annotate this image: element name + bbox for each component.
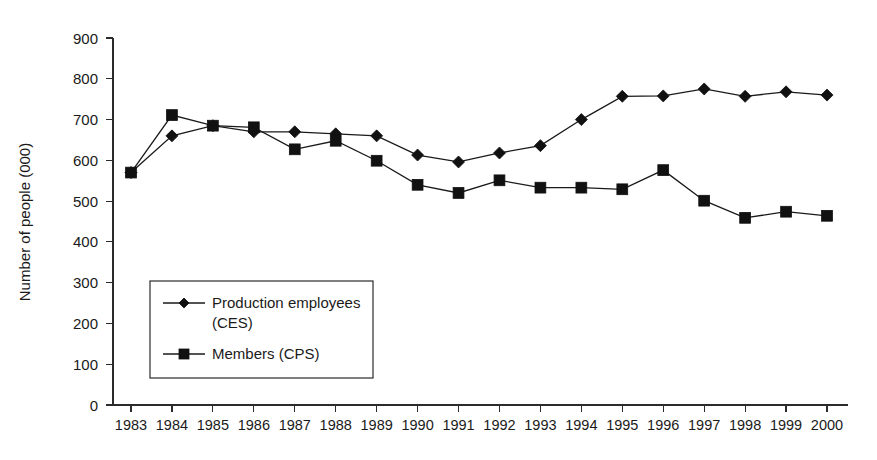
x-tick-label-1996: 1996	[647, 417, 679, 433]
data-point-1996	[658, 165, 669, 176]
y-tick-label-900: 900	[73, 30, 98, 47]
data-point-1985	[207, 120, 218, 131]
x-tick-label-1998: 1998	[729, 417, 761, 433]
y-tick-label-700: 700	[73, 111, 98, 128]
x-tick-label-1990: 1990	[401, 417, 433, 433]
y-axis-title: Number of people (000)	[16, 143, 33, 301]
data-point-1990	[412, 179, 423, 190]
x-tick-label-1988: 1988	[320, 417, 352, 433]
chart-container: Number of people (000) 01002003004005006…	[0, 0, 877, 460]
chart-background	[0, 0, 877, 460]
data-point-1993	[535, 182, 546, 193]
y-tick-label-800: 800	[73, 70, 98, 87]
x-tick-label-1984: 1984	[156, 417, 188, 433]
x-tick-label-1991: 1991	[442, 417, 474, 433]
x-tick-label-1983: 1983	[115, 417, 147, 433]
data-point-2000	[822, 210, 833, 221]
x-tick-label-1999: 1999	[770, 417, 802, 433]
x-tick-label-1989: 1989	[361, 417, 393, 433]
data-point-1992	[494, 175, 505, 186]
x-tick-label-1993: 1993	[524, 417, 556, 433]
data-point-1999	[781, 206, 792, 217]
data-point-1991	[453, 188, 464, 199]
square-marker-icon	[179, 349, 189, 359]
x-tick-label-1987: 1987	[279, 417, 311, 433]
y-tick-label-500: 500	[73, 193, 98, 210]
y-tick-label-400: 400	[73, 233, 98, 250]
legend-label-production-line2: (CES)	[212, 314, 253, 331]
y-tick-label-300: 300	[73, 274, 98, 291]
x-tick-label-1995: 1995	[606, 417, 638, 433]
y-tick-label-0: 0	[90, 397, 98, 414]
x-tick-label-1986: 1986	[238, 417, 270, 433]
legend-label-members-line1: Members (CPS)	[212, 345, 320, 362]
y-tick-label-100: 100	[73, 356, 98, 373]
data-point-1997	[699, 195, 710, 206]
data-point-1984	[167, 110, 178, 121]
x-tick-label-1997: 1997	[688, 417, 720, 433]
x-tick-label-1992: 1992	[483, 417, 515, 433]
data-point-1987	[289, 144, 300, 155]
data-point-1986	[248, 122, 259, 133]
data-point-1994	[576, 182, 587, 193]
line-chart: Number of people (000) 01002003004005006…	[0, 0, 877, 460]
x-tick-label-2000: 2000	[811, 417, 843, 433]
chart-legend: Production employees (CES) Members (CPS)	[150, 281, 373, 378]
data-point-1983	[126, 167, 137, 178]
data-point-1988	[330, 135, 341, 146]
data-point-1998	[740, 212, 751, 223]
x-tick-label-1985: 1985	[197, 417, 229, 433]
data-point-1995	[617, 184, 628, 195]
x-tick-label-1994: 1994	[565, 417, 597, 433]
y-tick-label-200: 200	[73, 315, 98, 332]
legend-label-production-line1: Production employees	[212, 294, 360, 311]
data-point-1989	[371, 155, 382, 166]
y-tick-label-600: 600	[73, 152, 98, 169]
